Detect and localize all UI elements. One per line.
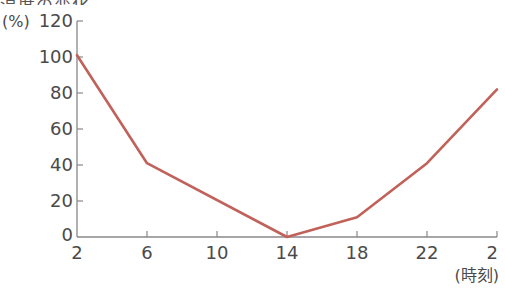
y-tick-label: 120 — [39, 10, 73, 31]
y-tick-label: 80 — [50, 82, 73, 103]
y-axis-unit-label: (%) — [2, 12, 30, 31]
x-axis-unit-label: (時刻) — [455, 266, 499, 285]
x-tick-label: 2 — [487, 242, 498, 263]
y-tick-label: 40 — [50, 154, 73, 175]
x-tick-label: 2 — [71, 242, 82, 263]
y-tick-label: 100 — [39, 46, 73, 67]
data-line — [77, 55, 497, 237]
x-tick-label: 18 — [346, 242, 369, 263]
x-tick-label: 6 — [141, 242, 152, 263]
x-tick-label: 22 — [416, 242, 439, 263]
y-tick-label: 20 — [50, 190, 73, 211]
x-tick-label: 10 — [206, 242, 229, 263]
line-chart: 020406080100120(%)26101418222(時刻) — [0, 0, 505, 291]
x-tick-label: 14 — [276, 242, 299, 263]
y-tick-label: 60 — [50, 118, 73, 139]
